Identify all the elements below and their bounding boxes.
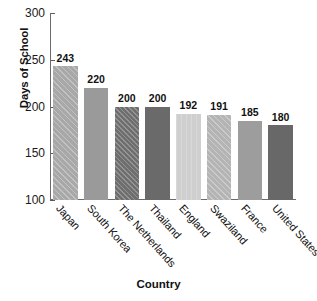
bar[interactable] bbox=[238, 121, 263, 200]
bar-value-label: 191 bbox=[207, 101, 232, 112]
bar[interactable] bbox=[145, 107, 170, 201]
x-tick-label: England bbox=[177, 202, 212, 240]
bar[interactable] bbox=[53, 66, 78, 200]
bar-group: 243 bbox=[53, 13, 78, 200]
bar[interactable] bbox=[84, 88, 109, 200]
bar-value-label: 243 bbox=[53, 53, 78, 64]
bar-value-label: 192 bbox=[176, 100, 201, 111]
bar-group: 185 bbox=[238, 13, 263, 200]
bar-value-label: 220 bbox=[84, 74, 109, 85]
y-tick-label: 150 bbox=[11, 147, 45, 159]
y-tick-label: 200 bbox=[11, 101, 45, 113]
bar-value-label: 180 bbox=[268, 112, 293, 123]
bar-chart: Days of School 300250200150100 243220200… bbox=[0, 0, 317, 301]
x-tick-label: United States bbox=[270, 202, 317, 258]
bar[interactable] bbox=[176, 114, 201, 200]
bar-group: 200 bbox=[145, 13, 170, 200]
bar-group: 192 bbox=[176, 13, 201, 200]
y-tick-label: 250 bbox=[11, 54, 45, 66]
bar[interactable] bbox=[115, 107, 140, 201]
bar-group: 220 bbox=[84, 13, 109, 200]
bar-group: 191 bbox=[207, 13, 232, 200]
bar-group: 180 bbox=[268, 13, 293, 200]
bar-value-label: 185 bbox=[238, 107, 263, 118]
y-tick-label: 100 bbox=[11, 194, 45, 206]
bar-value-label: 200 bbox=[145, 93, 170, 104]
bar-value-label: 200 bbox=[115, 93, 140, 104]
y-tick-label: 300 bbox=[11, 7, 45, 19]
x-tick-label: Japan bbox=[54, 202, 83, 232]
x-tick-label: The Netherlands bbox=[116, 202, 178, 269]
x-tick-label: France bbox=[239, 202, 270, 235]
bar-group: 200 bbox=[115, 13, 140, 200]
y-axis-ticks: 300250200150100 bbox=[5, 0, 45, 301]
bar[interactable] bbox=[207, 115, 232, 200]
bar[interactable] bbox=[268, 125, 293, 200]
x-axis-title: Country bbox=[0, 278, 317, 290]
plot-area: 243220200200192191185180 bbox=[50, 13, 296, 200]
